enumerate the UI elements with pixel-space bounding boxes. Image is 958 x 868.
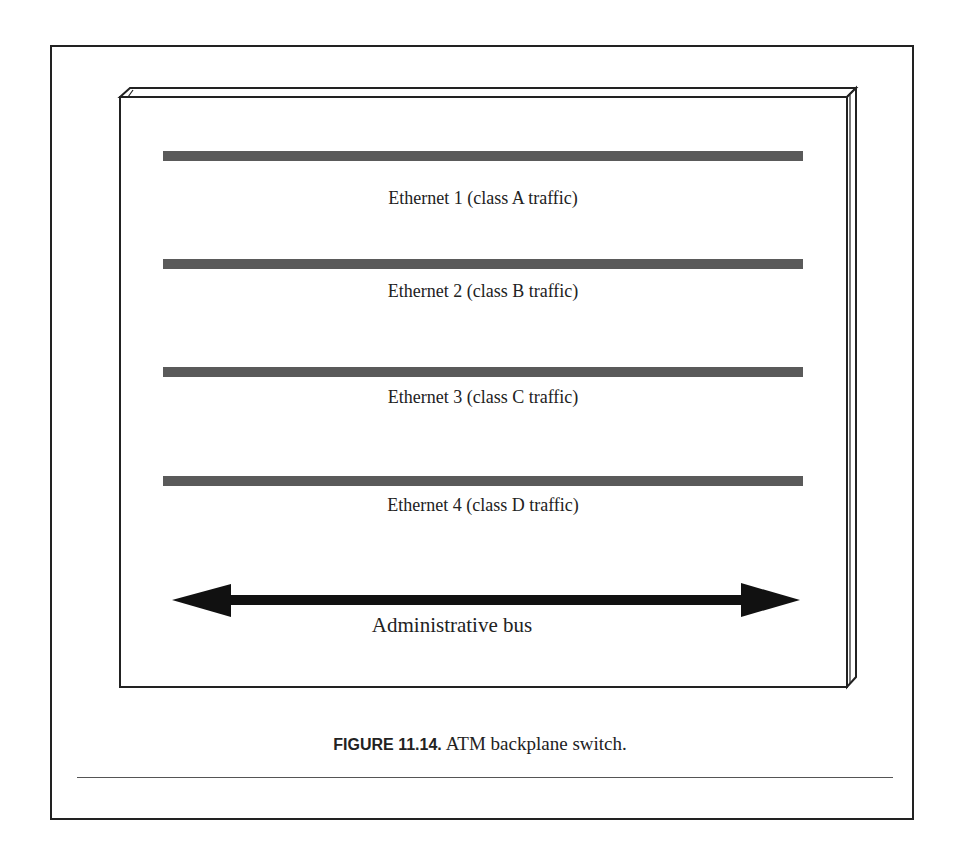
ethernet-4-label: Ethernet 4 (class D traffic) xyxy=(387,495,579,516)
ethernet-2-bar xyxy=(163,259,803,269)
ethernet-4-bar xyxy=(163,476,803,486)
figure-number: FIGURE 11.14. xyxy=(333,736,442,753)
ethernet-3-label: Ethernet 3 (class C traffic) xyxy=(388,387,579,408)
ethernet-3-bar xyxy=(163,367,803,377)
caption-rule xyxy=(77,777,893,778)
ethernet-1-bar xyxy=(163,151,803,161)
ethernet-2-label: Ethernet 2 (class B traffic) xyxy=(388,281,579,302)
figure-title: ATM backplane switch. xyxy=(446,733,627,754)
ethernet-1-label: Ethernet 1 (class A traffic) xyxy=(388,188,578,209)
figure-caption: FIGURE 11.14. ATM backplane switch. xyxy=(333,733,626,755)
administrative-bus-label: Administrative bus xyxy=(372,613,532,638)
